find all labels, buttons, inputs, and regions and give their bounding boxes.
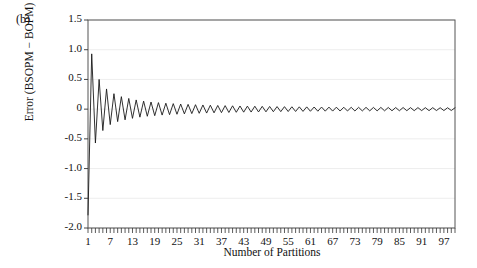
figure-panel-b: (b) Error (BSOPM − BOPM) 1.51.00.50-0.5-… [0, 0, 477, 268]
x-axis-label: Number of Partitions [88, 246, 456, 258]
x-axis-tick-labels: 17131925313743495561677379859197 [0, 0, 477, 268]
